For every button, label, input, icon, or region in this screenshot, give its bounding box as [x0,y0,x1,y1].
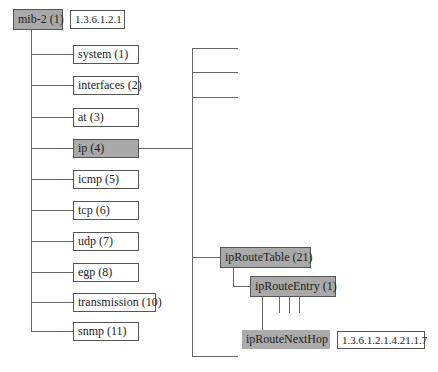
node-snmp: snmp (11) [73,322,139,341]
node-system: system (1) [73,45,139,64]
connector-line [31,85,73,86]
connector-line [31,54,73,55]
connector-line [31,148,73,149]
connector-line [279,297,280,313]
connector-line [192,257,220,258]
oid-mib-2: 1.3.6.1.2.1 [70,10,125,29]
connector-line [31,210,73,211]
connector-line [139,148,192,149]
connector-line [192,356,238,357]
connector-line [192,48,193,357]
node-iproutenexthop: ipRouteNextHop [242,330,330,349]
connector-line [31,241,73,242]
node-mib-2: mib-2 (1) [13,9,63,30]
node-transmission: transmission (10) [73,293,156,312]
connector-line [31,331,73,332]
connector-line [31,179,73,180]
connector-line [289,297,290,313]
node-interfaces: interfaces (2) [73,76,139,95]
connector-line [192,97,238,98]
node-icmp: icmp (5) [73,170,139,189]
connector-line [31,117,73,118]
node-udp: udp (7) [73,232,139,251]
node-at: at (3) [73,108,139,127]
connector-line [262,297,263,331]
connector-line [31,302,73,303]
node-iprouteentry: ipRouteEntry (1) [250,276,336,297]
node-egp: egp (8) [73,263,139,282]
connector-line [31,30,32,332]
node-tcp: tcp (6) [73,201,139,220]
node-iproutetable: ipRouteTable (21) [220,247,311,268]
oid-iproutenexthop: 1.3.6.1.2.1.4.21.1.7 [337,331,425,349]
connector-line [233,286,250,287]
connector-line [233,268,234,286]
connector-line [192,72,238,73]
connector-line [299,297,300,313]
node-ip: ip (4) [73,139,139,158]
connector-line [192,48,238,49]
connector-line [31,272,73,273]
